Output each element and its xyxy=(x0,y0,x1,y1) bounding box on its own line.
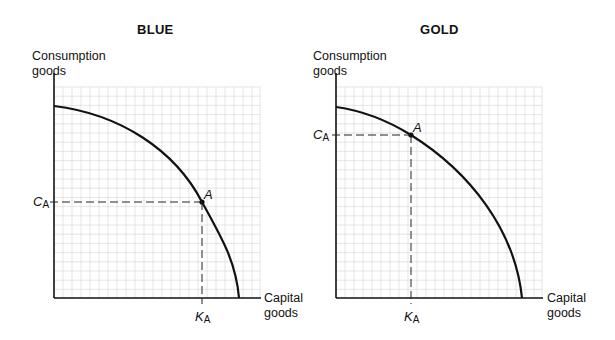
blue-title: BLUE xyxy=(137,22,174,37)
gold-y-axis-label-line1: Consumption xyxy=(313,49,387,64)
gold-y-axis-label-line2: goods xyxy=(313,64,387,79)
gold-ka-subscript: A xyxy=(413,314,420,325)
gold-title: GOLD xyxy=(420,22,459,37)
blue-grid xyxy=(54,87,260,298)
gold-x-axis-label: Capital goods xyxy=(547,291,586,321)
blue-ca-letter: C xyxy=(33,194,42,209)
gold-y-axis-label: Consumption goods xyxy=(313,49,387,79)
blue-ka-label: KA xyxy=(195,309,210,325)
blue-y-axis-label: Consumption goods xyxy=(32,49,106,79)
blue-x-axis-label: Capital goods xyxy=(264,291,303,321)
gold-chart xyxy=(332,73,543,304)
gold-ppf-curve xyxy=(336,107,522,298)
gold-ca-label: CA xyxy=(313,127,329,143)
blue-x-axis-label-line2: goods xyxy=(264,306,303,321)
gold-x-axis-label-line1: Capital xyxy=(547,291,586,306)
blue-ca-label: CA xyxy=(33,194,49,210)
gold-point-a-label: A xyxy=(413,120,422,135)
gold-grid xyxy=(336,87,542,298)
blue-x-axis-label-line1: Capital xyxy=(264,291,303,306)
blue-chart xyxy=(50,73,261,304)
gold-ka-label: KA xyxy=(404,309,419,325)
blue-y-axis-label-line2: goods xyxy=(32,64,106,79)
blue-ka-letter: K xyxy=(195,309,204,324)
gold-ca-subscript: A xyxy=(322,132,329,143)
gold-ca-letter: C xyxy=(313,127,322,142)
gold-ka-letter: K xyxy=(404,309,413,324)
blue-point-a-label: A xyxy=(204,187,213,202)
blue-ca-subscript: A xyxy=(42,199,49,210)
blue-ka-subscript: A xyxy=(204,314,211,325)
gold-x-axis-label-line2: goods xyxy=(547,306,586,321)
blue-y-axis-label-line1: Consumption xyxy=(32,49,106,64)
